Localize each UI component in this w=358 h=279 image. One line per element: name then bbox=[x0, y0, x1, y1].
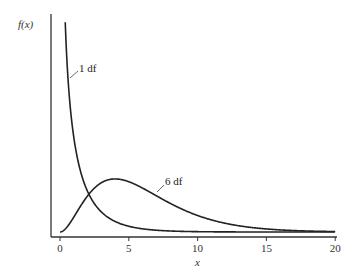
x-tick-label: 5 bbox=[126, 242, 132, 254]
x-tick-label: 0 bbox=[57, 242, 63, 254]
series-label-6df: 6 df bbox=[165, 175, 183, 187]
series-1df-curve bbox=[65, 22, 335, 232]
x-tick-label: 10 bbox=[192, 242, 204, 254]
leader-line-1df bbox=[70, 71, 78, 78]
y-axis-label: f(x) bbox=[18, 18, 34, 31]
x-axis-label: x bbox=[194, 256, 200, 268]
series-6df-curve bbox=[60, 179, 335, 232]
x-tick-label: 20 bbox=[330, 242, 342, 254]
chart: 05101520 f(x) x 1 df 6 df bbox=[0, 0, 358, 279]
series-label-1df: 1 df bbox=[79, 62, 97, 74]
x-tick-label: 15 bbox=[261, 242, 273, 254]
x-ticks: 05101520 bbox=[57, 237, 341, 254]
leader-line-6df bbox=[157, 185, 164, 192]
